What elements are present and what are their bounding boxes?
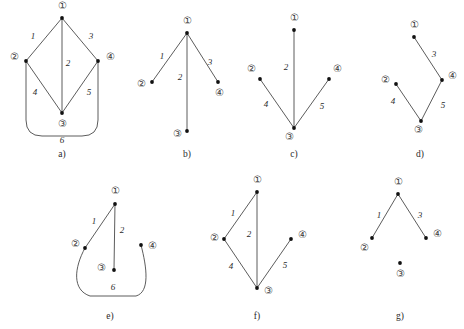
- vertex-3-dot: [419, 119, 423, 123]
- graph-panel-f: 1245①②③④f): [210, 175, 307, 322]
- edge-weight-label: 5: [441, 100, 446, 110]
- vertex-1-label: ①: [183, 16, 192, 26]
- edge-weight-label: 2: [247, 229, 252, 239]
- vertex-2-label: ②: [360, 243, 369, 253]
- edge-weight-label: 4: [229, 261, 234, 271]
- edge-weight-label: 1: [92, 216, 97, 226]
- edge-1-3: [114, 204, 115, 270]
- edge-2-3: [396, 84, 421, 121]
- edge-weight-label: 2: [284, 62, 289, 72]
- vertex-1-dot: [255, 190, 259, 194]
- vertex-2-dot: [24, 59, 28, 63]
- vertex-4-label: ④: [215, 88, 224, 98]
- edge-weight-label: 3: [207, 57, 213, 67]
- vertex-1-dot: [60, 16, 64, 20]
- vertex-2-dot: [370, 236, 374, 240]
- vertex-4-label: ④: [148, 241, 157, 251]
- vertex-1-label: ①: [410, 20, 419, 30]
- edge-weight-label: 1: [31, 31, 36, 41]
- edge-1-4: [187, 33, 218, 82]
- vertex-3-label: ③: [58, 119, 67, 129]
- edge-weight-label: 2: [120, 225, 125, 235]
- edge-3-4: [421, 80, 442, 121]
- graph-panel-d: 345①②③④d): [381, 20, 457, 160]
- vertex-2-label: ②: [247, 64, 256, 74]
- vertex-2-label: ②: [10, 52, 19, 62]
- edge-weight-label: 6: [111, 282, 116, 292]
- edge-2-3: [26, 61, 62, 113]
- vertex-3-dot: [255, 286, 259, 290]
- vertex-4-dot: [440, 78, 444, 82]
- edge-1-2: [224, 192, 257, 239]
- edge-weight-label: 2: [66, 58, 71, 68]
- vertex-2-dot: [222, 237, 226, 241]
- vertex-4-dot: [216, 80, 220, 84]
- edge-weight-label: 3: [88, 31, 94, 41]
- vertex-3-label: ③: [396, 269, 405, 279]
- edge-1-4: [414, 37, 442, 80]
- vertex-3-label: ③: [414, 125, 423, 135]
- panel-caption-d: d): [416, 149, 424, 160]
- vertex-2-label: ②: [71, 239, 80, 249]
- vertex-4-dot: [424, 236, 428, 240]
- vertex-1-label: ①: [253, 175, 262, 185]
- vertex-3-dot: [398, 261, 402, 265]
- vertex-4-label: ④: [333, 64, 342, 74]
- edge-weight-label: 1: [231, 208, 236, 218]
- panel-caption-g: g): [396, 311, 404, 322]
- vertex-4-label: ④: [298, 230, 307, 240]
- vertex-1-label: ①: [111, 186, 120, 196]
- vertex-4-label: ④: [448, 71, 457, 81]
- vertex-1-dot: [185, 31, 189, 35]
- vertex-1-dot: [292, 28, 296, 32]
- panel-caption-b: b): [183, 149, 191, 160]
- vertex-1-label: ①: [394, 177, 403, 187]
- vertex-2-dot: [150, 80, 154, 84]
- graph-panel-b: 123①②③④b): [137, 16, 224, 160]
- edge-weight-label: 6: [60, 135, 65, 145]
- figure-sheet: 123456①②③④a)123①②③④b)245①②③④c)345①②③④d)1…: [0, 0, 464, 329]
- graph-panel-e: 126①②③④e): [71, 186, 157, 322]
- panel-caption-e: e): [106, 311, 113, 322]
- vertex-1-dot: [396, 192, 400, 196]
- edge-weight-label: 4: [264, 99, 269, 109]
- vertex-3-label: ③: [173, 129, 182, 139]
- edge-weight-label: 3: [431, 49, 437, 59]
- edge-weight-label: 3: [417, 210, 423, 220]
- edge-weight-label: 5: [87, 87, 92, 97]
- vertex-4-dot: [139, 243, 143, 247]
- edge-weight-label: 4: [391, 96, 396, 106]
- vertex-4-dot: [327, 77, 331, 81]
- edge-weight-label: 4: [33, 87, 38, 97]
- vertex-3-label: ③: [285, 132, 294, 142]
- vertex-1-dot: [412, 35, 416, 39]
- vertex-1-label: ①: [290, 13, 299, 23]
- vertex-3-label: ③: [264, 286, 273, 296]
- vertex-3-dot: [292, 126, 296, 130]
- vertex-4-dot: [289, 237, 293, 241]
- panel-caption-c: c): [290, 149, 297, 160]
- edge-weight-label: 5: [320, 101, 325, 111]
- vertex-3-dot: [185, 129, 189, 133]
- vertex-4-label: ④: [433, 229, 442, 239]
- edge-weight-label: 5: [283, 260, 288, 270]
- vertex-2-label: ②: [381, 75, 390, 85]
- graph-canvas: 123456①②③④a)123①②③④b)245①②③④c)345①②③④d)1…: [0, 0, 464, 329]
- graph-panel-a: 123456①②③④a): [10, 1, 115, 160]
- graph-panel-c: 245①②③④c): [247, 13, 342, 160]
- vertex-3-label: ③: [97, 263, 106, 273]
- edge-3-4: [62, 61, 98, 113]
- graph-panel-g: 13①②③④g): [360, 177, 442, 322]
- vertex-2-dot: [258, 77, 262, 81]
- vertex-2-label: ②: [210, 233, 219, 243]
- vertex-1-dot: [113, 202, 117, 206]
- panel-caption-a: a): [58, 149, 65, 160]
- vertex-3-dot: [60, 111, 64, 115]
- vertex-1-label: ①: [58, 1, 67, 11]
- edge-weight-label: 1: [160, 51, 165, 61]
- vertex-2-label: ②: [137, 79, 146, 89]
- vertex-2-dot: [83, 246, 87, 250]
- vertex-4-dot: [96, 59, 100, 63]
- vertex-2-dot: [394, 82, 398, 86]
- panel-caption-f: f): [254, 311, 260, 322]
